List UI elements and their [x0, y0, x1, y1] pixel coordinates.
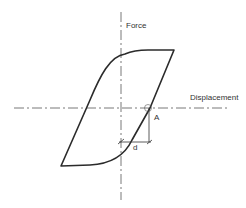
displacement-axis-label: Displacement: [190, 94, 238, 102]
force-axis-label: Force: [126, 22, 146, 30]
dimension-d-label: d: [133, 144, 137, 152]
hysteresis-diagram: [0, 0, 246, 208]
point-a-label: A: [154, 114, 159, 122]
